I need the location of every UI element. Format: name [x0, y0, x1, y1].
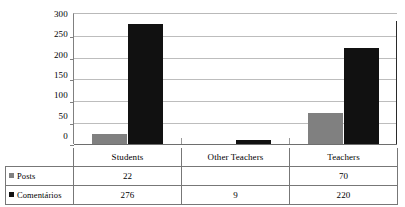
table-row-category-headers: Students Other Teachers Teachers	[6, 148, 398, 167]
comentarios-swatch-icon	[9, 192, 14, 197]
bars-layer	[73, 13, 397, 144]
y-tick-label-250: 250	[30, 30, 68, 39]
cell-comentarios-other-teachers: 9	[182, 186, 290, 205]
plot-region: 300 250 200 150 100 50 0	[0, 8, 405, 148]
y-tick-label-150: 150	[30, 71, 68, 80]
y-tick-label-200: 200	[30, 51, 68, 60]
cell-posts-teachers: 70	[290, 167, 398, 186]
group-separator-2	[289, 138, 290, 144]
bar-students-posts	[92, 134, 127, 144]
y-tick-label-0: 0	[30, 132, 68, 141]
plot-right-edge	[396, 21, 397, 144]
bar-chart-figure: 300 250 200 150 100 50 0	[0, 0, 405, 207]
y-tick-label-100: 100	[30, 91, 68, 100]
cell-posts-students: 22	[74, 167, 182, 186]
legend-item-posts: Posts	[6, 167, 74, 186]
bar-teachers-posts	[308, 113, 343, 144]
chart-data-table: Students Other Teachers Teachers Posts 2…	[5, 148, 398, 205]
group-separator-1	[181, 138, 182, 144]
y-tick-label-300: 300	[30, 10, 68, 19]
y-axis: 300 250 200 150 100 50 0	[30, 8, 68, 148]
bar-students-comentarios	[128, 24, 163, 145]
category-header-other-teachers: Other Teachers	[182, 148, 290, 167]
y-tick-label-50: 50	[30, 112, 68, 121]
category-header-teachers: Teachers	[290, 148, 398, 167]
table-corner-cell	[6, 148, 74, 167]
bar-teachers-comentarios	[344, 48, 379, 144]
cell-posts-other-teachers	[182, 167, 290, 186]
bar-other-teachers-comentarios	[236, 140, 271, 144]
posts-swatch-icon	[9, 173, 14, 178]
cell-comentarios-teachers: 220	[290, 186, 398, 205]
table-row: Posts 22 70	[6, 167, 398, 186]
gridline-0-baseline	[74, 144, 397, 145]
legend-item-comentarios: Comentários	[6, 186, 74, 205]
table-row: Comentários 276 9 220	[6, 186, 398, 205]
cell-comentarios-students: 276	[74, 186, 182, 205]
legend-label-comentarios: Comentários	[17, 190, 62, 200]
legend-label-posts: Posts	[17, 171, 35, 181]
category-header-students: Students	[74, 148, 182, 167]
